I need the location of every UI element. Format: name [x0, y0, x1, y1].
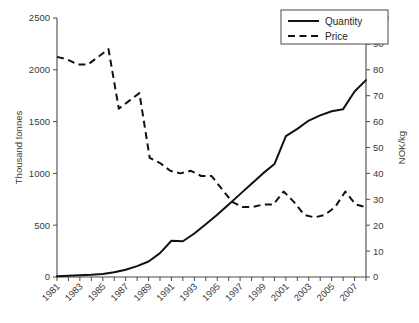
- x-axis-tick-label: 2007: [338, 281, 360, 303]
- legend-label-quantity: Quantity: [325, 16, 362, 27]
- line-chart-figure: 05001000150020002500Thousand tonnes01020…: [0, 0, 419, 323]
- x-axis-tick-label: 1983: [63, 281, 85, 303]
- y-axis-right-tick-label: 60: [373, 116, 384, 127]
- x-axis-tick-label: 1999: [246, 281, 268, 303]
- x-axis-tick-label: 1997: [223, 281, 245, 303]
- x-axis-tick-label: 2001: [269, 281, 291, 303]
- legend-label-price: Price: [325, 31, 348, 42]
- y-axis-right-tick-label: 70: [373, 90, 384, 101]
- x-axis-tick-label: 2005: [315, 281, 337, 303]
- chart-container: 05001000150020002500Thousand tonnes01020…: [0, 0, 419, 323]
- y-axis-right-tick-label: 10: [373, 246, 384, 257]
- y-axis-left-tick-label: 500: [34, 220, 50, 231]
- plot-layer: 05001000150020002500Thousand tonnes01020…: [13, 10, 407, 303]
- y-axis-right-tick-label: 20: [373, 220, 384, 231]
- series-line-price: [57, 49, 366, 217]
- y-axis-left-tick-label: 2000: [29, 64, 50, 75]
- y-axis-right-tick-label: 50: [373, 142, 384, 153]
- y-axis-left-tick-label: 0: [45, 271, 50, 282]
- x-axis-tick-label: 1991: [155, 281, 177, 303]
- x-axis-tick-label: 1995: [200, 281, 222, 303]
- y-axis-left-tick-label: 1500: [29, 116, 50, 127]
- y-axis-right-tick-label: 30: [373, 194, 384, 205]
- series-line-quantity: [57, 80, 366, 276]
- y-axis-left-tick-label: 2500: [29, 12, 50, 23]
- x-axis-tick-label: 1987: [109, 281, 131, 303]
- y-axis-right-title: NOK/kg: [396, 131, 407, 164]
- x-axis-tick-label: 1981: [40, 281, 62, 303]
- x-axis-tick-label: 1993: [178, 281, 200, 303]
- x-axis-tick-label: 1989: [132, 281, 154, 303]
- x-axis-tick-label: 1985: [86, 281, 108, 303]
- y-axis-left-tick-label: 1000: [29, 168, 50, 179]
- y-axis-right-tick-label: 80: [373, 64, 384, 75]
- y-axis-left-title: Thousand tonnes: [13, 111, 24, 185]
- y-axis-right-tick-label: 0: [373, 271, 378, 282]
- y-axis-right-tick-label: 40: [373, 168, 384, 179]
- x-axis-tick-label: 2003: [292, 281, 314, 303]
